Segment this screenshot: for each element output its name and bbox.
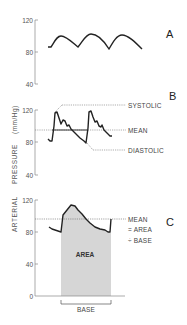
panel-label-c: C (166, 216, 174, 228)
y-label-units: (mm/Hg) (11, 105, 19, 134)
panel-a: 120 80 40 A (22, 17, 174, 88)
label-mean: MEAN (128, 127, 148, 134)
y-label-arterial: ARTERIAL (11, 196, 18, 232)
panel-b: 120 80 40 SYSTOLIC MEAN DIASTOLIC B (22, 90, 176, 179)
eq-mean: MEAN (128, 216, 148, 223)
y-label-pressure: PRESSURE (11, 144, 18, 184)
tick-c-80: 80 (26, 229, 34, 236)
panel-label-b: B (169, 90, 176, 102)
tick-a-40: 40 (26, 81, 34, 88)
tick-b-40: 40 (26, 172, 34, 179)
panel-c: 120 80 40 0 AREA BASE MEAN = AREA ÷ BASE… (22, 197, 174, 314)
waveform-b (48, 111, 112, 143)
tick-b-120: 120 (22, 107, 33, 114)
label-base: BASE (77, 306, 96, 313)
label-area: AREA (76, 251, 95, 258)
tick-b-80: 80 (26, 139, 34, 146)
waveform-a (48, 34, 142, 49)
tick-c-40: 40 (26, 261, 34, 268)
pressure-figure: ARTERIAL PRESSURE (mm/Hg) 120 80 40 A 12… (0, 0, 187, 325)
label-diastolic: DIASTOLIC (128, 147, 164, 154)
eq-area: = AREA (128, 226, 153, 233)
eq-base: ÷ BASE (128, 237, 152, 244)
y-axis-label: ARTERIAL PRESSURE (mm/Hg) (11, 105, 19, 232)
tick-c-0: 0 (29, 293, 33, 300)
tick-c-120: 120 (22, 197, 33, 204)
tick-a-120: 120 (22, 17, 33, 24)
panel-label-a: A (166, 28, 174, 40)
tick-a-80: 80 (26, 49, 34, 56)
label-systolic: SYSTOLIC (128, 102, 162, 109)
